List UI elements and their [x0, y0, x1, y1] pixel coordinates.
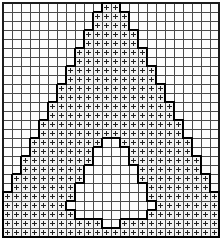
stitch-cell-marked[interactable] — [48, 147, 57, 156]
stitch-cell-marked[interactable] — [39, 147, 48, 156]
stitch-cell-marked[interactable] — [30, 147, 39, 156]
stitch-cell-empty[interactable] — [12, 120, 21, 129]
stitch-cell-empty[interactable] — [21, 84, 30, 93]
stitch-cell-marked[interactable] — [156, 93, 165, 102]
stitch-cell-empty[interactable] — [3, 21, 12, 30]
stitch-cell-marked[interactable] — [129, 102, 138, 111]
stitch-cell-empty[interactable] — [129, 201, 138, 210]
stitch-cell-empty[interactable] — [3, 57, 12, 66]
stitch-cell-empty[interactable] — [174, 57, 183, 66]
stitch-cell-empty[interactable] — [84, 165, 93, 174]
stitch-cell-marked[interactable] — [102, 57, 111, 66]
stitch-cell-empty[interactable] — [39, 30, 48, 39]
stitch-cell-empty[interactable] — [165, 48, 174, 57]
stitch-cell-empty[interactable] — [147, 39, 156, 48]
stitch-cell-empty[interactable] — [3, 3, 12, 12]
stitch-cell-empty[interactable] — [138, 192, 147, 201]
stitch-cell-marked[interactable] — [129, 57, 138, 66]
stitch-cell-empty[interactable] — [57, 39, 66, 48]
stitch-cell-empty[interactable] — [165, 3, 174, 12]
stitch-cell-empty[interactable] — [48, 48, 57, 57]
stitch-cell-marked[interactable] — [102, 102, 111, 111]
stitch-cell-empty[interactable] — [48, 12, 57, 21]
stitch-cell-empty[interactable] — [210, 120, 219, 129]
stitch-cell-marked[interactable] — [183, 201, 192, 210]
stitch-cell-empty[interactable] — [39, 102, 48, 111]
stitch-cell-marked[interactable] — [93, 228, 102, 237]
stitch-cell-empty[interactable] — [201, 138, 210, 147]
stitch-cell-marked[interactable] — [174, 201, 183, 210]
stitch-cell-marked[interactable] — [30, 228, 39, 237]
stitch-cell-empty[interactable] — [165, 93, 174, 102]
stitch-cell-empty[interactable] — [120, 147, 129, 156]
stitch-cell-empty[interactable] — [3, 138, 12, 147]
stitch-cell-marked[interactable] — [93, 111, 102, 120]
stitch-cell-marked[interactable] — [30, 138, 39, 147]
stitch-cell-marked[interactable] — [75, 147, 84, 156]
stitch-cell-empty[interactable] — [30, 111, 39, 120]
stitch-cell-empty[interactable] — [39, 93, 48, 102]
stitch-cell-empty[interactable] — [210, 129, 219, 138]
stitch-cell-marked[interactable] — [201, 228, 210, 237]
stitch-cell-marked[interactable] — [84, 93, 93, 102]
stitch-cell-marked[interactable] — [156, 174, 165, 183]
stitch-cell-empty[interactable] — [138, 12, 147, 21]
stitch-cell-marked[interactable] — [57, 129, 66, 138]
stitch-cell-marked[interactable] — [84, 57, 93, 66]
stitch-cell-marked[interactable] — [120, 21, 129, 30]
stitch-cell-marked[interactable] — [66, 219, 75, 228]
stitch-cell-marked[interactable] — [192, 156, 201, 165]
stitch-cell-marked[interactable] — [48, 111, 57, 120]
stitch-cell-marked[interactable] — [39, 165, 48, 174]
stitch-cell-empty[interactable] — [57, 21, 66, 30]
stitch-cell-marked[interactable] — [147, 183, 156, 192]
stitch-cell-marked[interactable] — [111, 12, 120, 21]
stitch-cell-empty[interactable] — [30, 57, 39, 66]
stitch-cell-marked[interactable] — [156, 210, 165, 219]
stitch-cell-empty[interactable] — [102, 219, 111, 228]
stitch-cell-marked[interactable] — [102, 66, 111, 75]
stitch-cell-empty[interactable] — [75, 201, 84, 210]
stitch-cell-empty[interactable] — [174, 75, 183, 84]
stitch-cell-marked[interactable] — [84, 138, 93, 147]
stitch-cell-empty[interactable] — [120, 165, 129, 174]
stitch-cell-marked[interactable] — [192, 219, 201, 228]
stitch-cell-marked[interactable] — [138, 102, 147, 111]
stitch-cell-empty[interactable] — [21, 12, 30, 21]
stitch-cell-empty[interactable] — [120, 3, 129, 12]
stitch-cell-marked[interactable] — [120, 30, 129, 39]
stitch-cell-empty[interactable] — [12, 3, 21, 12]
stitch-cell-marked[interactable] — [174, 210, 183, 219]
stitch-cell-marked[interactable] — [165, 102, 174, 111]
stitch-cell-empty[interactable] — [57, 30, 66, 39]
stitch-cell-marked[interactable] — [102, 120, 111, 129]
stitch-cell-marked[interactable] — [102, 3, 111, 12]
stitch-cell-marked[interactable] — [138, 129, 147, 138]
stitch-cell-marked[interactable] — [57, 219, 66, 228]
stitch-cell-empty[interactable] — [57, 75, 66, 84]
stitch-cell-marked[interactable] — [93, 93, 102, 102]
stitch-cell-empty[interactable] — [210, 93, 219, 102]
stitch-cell-empty[interactable] — [75, 21, 84, 30]
stitch-cell-empty[interactable] — [12, 12, 21, 21]
stitch-cell-marked[interactable] — [156, 138, 165, 147]
stitch-cell-empty[interactable] — [201, 93, 210, 102]
stitch-cell-empty[interactable] — [3, 93, 12, 102]
stitch-cell-empty[interactable] — [21, 3, 30, 12]
stitch-cell-marked[interactable] — [111, 21, 120, 30]
stitch-cell-marked[interactable] — [75, 84, 84, 93]
stitch-cell-empty[interactable] — [57, 12, 66, 21]
stitch-cell-empty[interactable] — [39, 111, 48, 120]
stitch-cell-empty[interactable] — [84, 12, 93, 21]
stitch-cell-empty[interactable] — [12, 93, 21, 102]
stitch-cell-empty[interactable] — [3, 174, 12, 183]
stitch-cell-marked[interactable] — [75, 48, 84, 57]
stitch-cell-marked[interactable] — [66, 183, 75, 192]
stitch-cell-marked[interactable] — [120, 48, 129, 57]
stitch-cell-marked[interactable] — [147, 66, 156, 75]
stitch-cell-marked[interactable] — [165, 228, 174, 237]
stitch-cell-empty[interactable] — [30, 12, 39, 21]
stitch-cell-empty[interactable] — [39, 75, 48, 84]
stitch-cell-marked[interactable] — [102, 129, 111, 138]
stitch-cell-marked[interactable] — [93, 39, 102, 48]
